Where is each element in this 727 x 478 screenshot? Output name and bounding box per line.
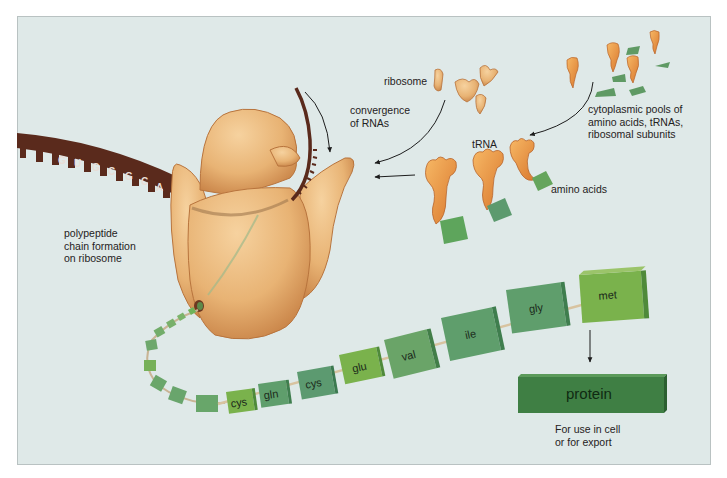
ribosome-subunits [434,65,498,114]
svg-text:gln: gln [263,387,279,401]
mrna-base: C [141,176,148,187]
trna-3 [510,139,553,192]
mrna-base: U [74,158,81,169]
trna-molecules [426,139,554,245]
protein-use-label: For use in cell or for export [555,423,620,448]
amino-acid-block: gly [506,282,571,334]
trna-1 [426,157,469,244]
amino-acid-block: cys [226,388,258,414]
mrna-strand: G U G C G C A G [17,133,180,200]
convergence-label: convergence of RNAs [350,104,410,129]
cytoplasmic-pools-label: cytoplasmic pools of amino acids, tRNAs,… [588,103,683,141]
polypeptide-label: polypeptide chain formation on ribosome [64,227,136,265]
pools-arrow [530,82,593,135]
mrna-base: G [92,162,100,173]
svg-text:gly: gly [528,301,544,315]
trna-arrow [375,175,415,177]
mrna-base: C [108,166,115,177]
amino-acid-block: cys [297,366,338,400]
amino-acids-label: amino acids [551,183,607,196]
amino-acid-block: gln [258,380,292,408]
trna-2 [473,149,512,222]
amino-acid-block: ile [441,306,505,361]
mrna-base: G [125,171,133,182]
ribosome-illustration [171,109,354,339]
trna-label: tRNA [472,138,497,151]
mrna-base: G [58,155,66,166]
amino-acid-block: val [384,328,440,378]
svg-text:cys: cys [230,395,249,409]
mrna-base: A [156,182,163,193]
ribosome-label: ribosome [384,75,427,88]
protein-block: protein [518,374,667,413]
cytoplasmic-pool [567,31,670,98]
svg-text:met: met [598,288,617,301]
amino-acid-block: met [579,266,649,323]
amino-acid-block: glu [339,346,385,384]
protein-label: protein [566,385,612,402]
